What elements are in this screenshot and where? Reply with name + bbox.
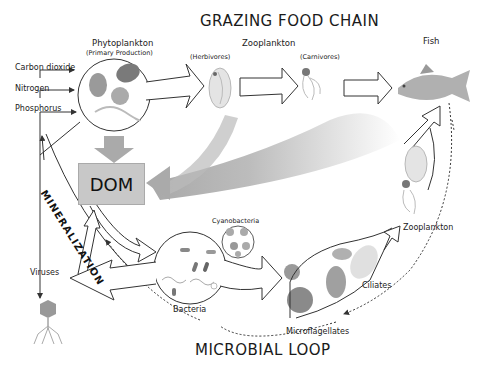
microflagellates-label: Microflagellates bbox=[286, 327, 349, 336]
zooplankton-label: Zooplankton bbox=[242, 38, 295, 48]
microbial-loop-title: MICROBIAL LOOP bbox=[195, 341, 331, 359]
bacteria-label: Bacteria bbox=[173, 305, 206, 314]
cyanobacteria-circle bbox=[222, 226, 254, 258]
loop-zooplankton-label: Zooplankton bbox=[403, 223, 453, 232]
carbon-dioxide-label: Carbon dioxide bbox=[15, 63, 75, 72]
phosphorus-label: Phosphorus bbox=[15, 104, 62, 113]
cyanobacteria-label: Cyanobacteria bbox=[212, 217, 259, 225]
herbivores-label: (Herbivores) bbox=[190, 53, 230, 61]
phytoplankton-circle bbox=[78, 59, 150, 131]
herbivore-zooplankton bbox=[209, 68, 231, 108]
virus-icon bbox=[34, 300, 62, 344]
viruses-label: Viruses bbox=[30, 268, 59, 277]
fish-label: Fish bbox=[423, 36, 439, 46]
nitrogen-label: Nitrogen bbox=[15, 84, 49, 93]
primary-production-label: (Primary Production) bbox=[86, 49, 153, 57]
dom-box: DOM bbox=[78, 163, 145, 205]
aquatic-food-web-diagram: GRAZING FOOD CHAIN MICROBIAL LOOP Phytop… bbox=[0, 0, 484, 370]
fish bbox=[398, 64, 470, 102]
protists bbox=[284, 226, 400, 318]
ciliates-label: Ciliates bbox=[362, 281, 391, 290]
bacteria-circle bbox=[154, 232, 226, 304]
phytoplankton-label: Phytoplankton bbox=[92, 38, 153, 48]
grazing-food-chain-title: GRAZING FOOD CHAIN bbox=[200, 12, 379, 30]
carnivore-zooplankton bbox=[302, 68, 320, 100]
diagram-graphics bbox=[0, 0, 484, 370]
carnivores-label: (Carnivores) bbox=[300, 53, 340, 61]
